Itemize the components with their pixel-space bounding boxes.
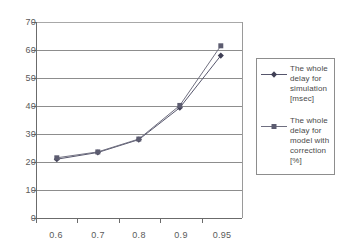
- x-axis-tick: [77, 218, 78, 223]
- gridline-0: [37, 218, 242, 219]
- data-point-marker: [54, 155, 59, 160]
- y-axis-label-30: 30: [8, 130, 36, 139]
- x-axis-tick: [36, 218, 37, 223]
- x-axis-label-4: 0.95: [200, 230, 244, 240]
- y-axis-label-10: 10: [8, 186, 36, 195]
- x-axis-label-1: 0.7: [76, 230, 120, 240]
- y-axis-label-70: 70: [8, 18, 36, 27]
- square-marker-icon: [261, 121, 287, 132]
- data-series-layer: [37, 22, 242, 218]
- legend-entry-series-1[interactable]: The whole delay for simulation [msec]: [257, 65, 334, 115]
- series-line: [57, 56, 221, 160]
- data-point-marker: [95, 149, 100, 154]
- legend-label-series-1: The whole delay for simulation [msec]: [290, 64, 334, 104]
- plot-area: [36, 22, 243, 218]
- x-axis-tick: [160, 218, 161, 223]
- data-point-marker: [177, 103, 182, 108]
- y-axis-label-20: 20: [8, 158, 36, 167]
- x-axis-label-0: 0.6: [34, 230, 78, 240]
- chart-container: 70 60 50 40 30 20 10 0 0.6 0.7 0.8 0.9 0…: [0, 0, 342, 248]
- data-point-marker: [136, 137, 141, 142]
- data-point-marker: [218, 43, 223, 48]
- y-axis-label-60: 60: [8, 46, 36, 55]
- x-axis-label-2: 0.8: [117, 230, 161, 240]
- x-axis-tick: [202, 218, 203, 223]
- chart-legend: The whole delay for simulation [msec] Th…: [256, 58, 335, 175]
- diamond-marker-icon: [261, 69, 287, 80]
- x-axis-label-3: 0.9: [159, 230, 203, 240]
- y-axis-label-0: 0: [8, 214, 36, 223]
- x-axis-tick: [119, 218, 120, 223]
- y-axis-label-50: 50: [8, 74, 36, 83]
- y-axis-label-40: 40: [8, 102, 36, 111]
- legend-label-series-2: The whole delay for model with correctio…: [290, 116, 334, 166]
- legend-entry-series-2[interactable]: The whole delay for model with correctio…: [257, 117, 334, 167]
